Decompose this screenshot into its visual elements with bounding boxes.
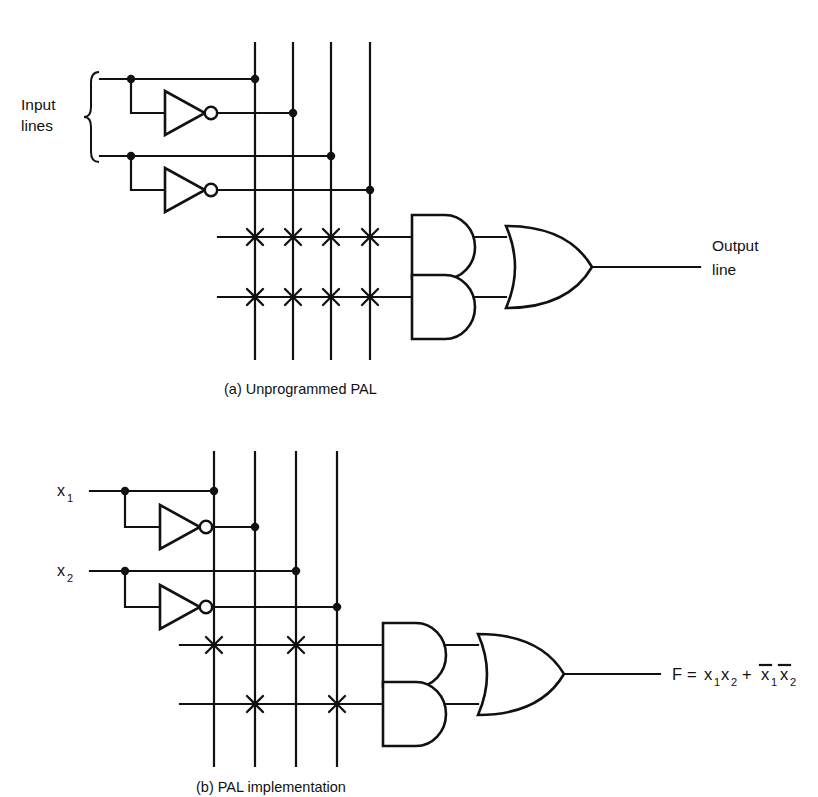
junction-dot: [366, 186, 374, 194]
expr-equals: =: [687, 665, 697, 683]
panel-a-input-label-line1: Input: [21, 96, 56, 113]
panel-b-input-x1-true: [90, 487, 218, 527]
expr-term1-sub2: 2: [731, 676, 737, 688]
panel-a-output-label-line2: line: [712, 261, 736, 278]
inverter-bubble-icon: [205, 107, 217, 119]
input-label-x1-sub: 1: [67, 492, 73, 504]
junction-dot: [292, 567, 300, 575]
expr-plus: +: [742, 665, 752, 683]
panel-a-or-gate: [506, 226, 700, 308]
panel-a-column-lines: [255, 42, 370, 360]
panel-b-and-gate-1: [383, 623, 478, 687]
panel-a-and-gate-2: [412, 275, 506, 339]
junction-dot: [333, 603, 341, 611]
expr-term2-var1: x: [761, 665, 770, 683]
input-label-x2-name: x: [57, 562, 65, 579]
panel-b-inverter-1: [160, 505, 259, 549]
panel-a-inverter-2: [165, 168, 374, 212]
panel-b-input-label-x1: x 1: [57, 482, 73, 504]
panel-b-inverter-2: [160, 585, 341, 629]
panel-b-column-lines: [214, 451, 337, 767]
expr-term1-sub1: 1: [714, 676, 720, 688]
junction-dot: [289, 109, 297, 117]
panel-b-diagram: x 1 x 2 F = x 1 x 2 + x 1 x 2 (b) PAL im…: [0, 407, 818, 797]
panel-a-input-2-true: [100, 152, 335, 190]
pal-figure: Output line Input lines (a) Unprogrammed…: [0, 0, 818, 797]
expr-term2-sub2: 2: [790, 676, 796, 688]
panel-a-output-label-line1: Output: [712, 237, 759, 254]
expr-term2-sub1: 1: [771, 676, 777, 688]
panel-a-diagram: Output line Input lines (a) Unprogrammed…: [0, 0, 818, 410]
panel-b-input-label-x2: x 2: [57, 562, 73, 584]
panel-b-caption: (b) PAL implementation: [196, 779, 346, 795]
junction-dot: [251, 75, 259, 83]
expr-term2-var2: x: [780, 665, 789, 683]
panel-b-output-expression: F = x 1 x 2 + x 1 x 2: [672, 665, 796, 688]
expr-term1-var2: x: [721, 665, 730, 683]
expr-f: F: [672, 665, 682, 683]
inverter-bubble-icon: [205, 184, 217, 196]
panel-a-inverter-1: [165, 91, 297, 135]
panel-b-input-x2-true: [90, 567, 300, 607]
panel-a-and-gate-1: [412, 215, 506, 279]
panel-a-input-brace: [84, 72, 99, 162]
panel-b-and-gate-2: [383, 682, 478, 746]
panel-a-input-label-line2: lines: [21, 117, 53, 134]
inverter-bubble-icon: [200, 521, 212, 533]
junction-dot: [251, 523, 259, 531]
panel-a-caption: (a) Unprogrammed PAL: [224, 381, 377, 397]
junction-dot: [327, 152, 335, 160]
panel-b-or-gate: [478, 634, 660, 715]
expr-term1-var1: x: [704, 665, 713, 683]
junction-dot: [210, 487, 218, 495]
inverter-bubble-icon: [200, 601, 212, 613]
input-label-x1-name: x: [57, 482, 65, 499]
input-label-x2-sub: 2: [67, 572, 73, 584]
